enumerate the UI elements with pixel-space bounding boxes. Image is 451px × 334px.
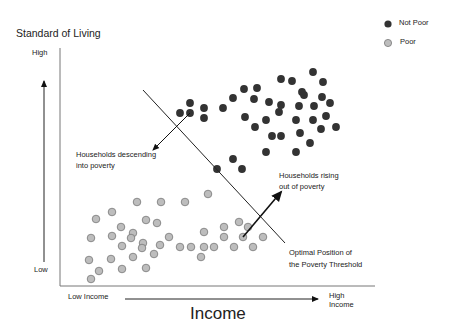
not-poor-household-dot — [268, 132, 276, 140]
not-poor-household-dot — [238, 165, 246, 173]
not-poor-household-dot — [229, 155, 237, 163]
not-poor-household-dot — [310, 102, 318, 110]
poor-household-dot — [153, 219, 161, 227]
not-poor-household-dot — [240, 85, 248, 93]
descending-label-1: Households descending — [76, 151, 156, 160]
poor-household-dot — [181, 198, 189, 206]
not-poor-household-dot — [253, 84, 261, 92]
poor-household-dot — [165, 233, 173, 241]
not-poor-household-dot — [306, 139, 314, 147]
not-poor-household-dot — [176, 109, 184, 117]
rising-arrow — [243, 192, 281, 237]
poor-household-dot — [142, 216, 150, 224]
not-poor-household-dot — [309, 116, 317, 124]
not-poor-household-dot — [251, 123, 259, 131]
not-poor-household-dot — [200, 104, 208, 112]
threshold-label-1: Optimal Position of — [289, 249, 352, 258]
poor-household-dot — [230, 243, 238, 251]
poor-household-dot — [150, 250, 158, 258]
not-poor-household-dot — [262, 116, 270, 124]
poor-household-dot — [220, 233, 228, 241]
y-low-label: Low — [34, 266, 48, 275]
not-poor-household-dot — [200, 114, 208, 122]
poor-household-dot — [259, 233, 267, 241]
not-poor-household-dot — [309, 68, 317, 76]
poor-household-dot — [157, 198, 165, 206]
not-poor-household-dot — [332, 123, 340, 131]
poor-household-dot — [235, 218, 243, 226]
poor-household-dot — [187, 243, 195, 251]
not-poor-household-dot — [292, 116, 300, 124]
descending-label-2: into poverty — [76, 162, 115, 171]
not-poor-household-dot — [318, 93, 326, 101]
not-poor-household-dot — [241, 113, 249, 121]
x-low-label: Low Income — [68, 293, 108, 302]
poor-household-dot — [107, 255, 115, 263]
poor-household-dot — [204, 190, 212, 198]
poor-household-dot — [87, 275, 95, 283]
poor-household-dot — [200, 228, 208, 236]
poor-household-dot — [118, 265, 126, 273]
poor-household-dot — [176, 243, 184, 251]
threshold-label-2: the Poverty Threshold — [289, 261, 362, 270]
poor-household-dot — [142, 264, 150, 272]
not-poor-household-dot — [295, 102, 303, 110]
not-poor-household-dot — [277, 101, 285, 109]
not-poor-household-dot — [277, 75, 285, 83]
not-poor-household-dot — [296, 129, 304, 137]
poor-household-dot — [197, 253, 205, 261]
poor-household-dot — [108, 208, 116, 216]
not-poor-household-dot — [186, 99, 194, 107]
not-poor-household-dot — [322, 112, 330, 120]
legend-not-poor-dot — [384, 20, 391, 27]
poor-household-dot — [129, 253, 137, 261]
descending-arrow — [153, 113, 190, 150]
not-poor-household-dot — [319, 78, 327, 86]
legend-not-poor-label: Not Poor — [399, 19, 429, 28]
legend-poor-dot — [384, 39, 391, 46]
poor-household-dot — [249, 243, 257, 251]
not-poor-household-dot — [250, 95, 258, 103]
legend-poor-label: Poor — [400, 38, 416, 47]
not-poor-household-dot — [275, 108, 283, 116]
poor-household-dot — [156, 241, 164, 249]
not-poor-household-dot — [300, 91, 308, 99]
poor-household-dot — [85, 256, 93, 264]
rising-label-1: Households rising — [279, 172, 339, 181]
y-high-label: High — [32, 49, 47, 58]
poor-household-dot — [108, 232, 116, 240]
not-poor-household-dot — [229, 94, 237, 102]
not-poor-household-dot — [288, 77, 296, 85]
poor-household-dot — [133, 198, 141, 206]
not-poor-household-dot — [262, 148, 270, 156]
x-axis-title: Income — [190, 304, 246, 324]
not-poor-household-dot — [292, 148, 300, 156]
scatter-plot — [0, 0, 451, 334]
poor-household-dot — [92, 215, 100, 223]
not-poor-household-dot — [277, 132, 285, 140]
rising-label-2: out of poverty — [279, 183, 324, 192]
poor-household-dot — [127, 234, 135, 242]
not-poor-household-dot — [219, 104, 227, 112]
poor-household-dot — [117, 223, 125, 231]
poor-household-dot — [87, 234, 95, 242]
y-axis-title: Standard of Living — [16, 27, 101, 39]
not-poor-household-dot — [317, 125, 325, 133]
x-high-label-2: Income — [329, 301, 354, 310]
not-poor-household-dot — [326, 99, 334, 107]
poverty-threshold-line — [143, 90, 285, 243]
poor-household-dot — [138, 244, 146, 252]
poor-household-dot — [95, 267, 103, 275]
poor-household-dot — [220, 223, 228, 231]
poor-household-dot — [210, 243, 218, 251]
poor-household-dot — [118, 242, 126, 250]
not-poor-household-dot — [265, 98, 273, 106]
poor-household-dot — [200, 243, 208, 251]
